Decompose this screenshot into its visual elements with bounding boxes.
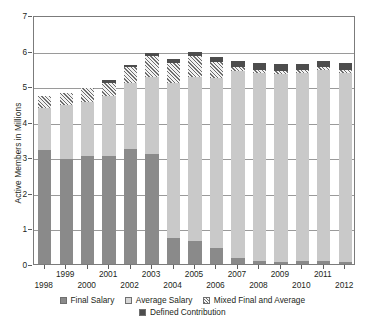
bar-column-1999[interactable] [60,93,73,264]
legend-row-secondary: Defined Contribution [139,307,225,317]
chart-legend: Final SalaryAverage SalaryMixed Final an… [0,295,365,317]
bar-series-group [34,17,354,264]
bar-column-2012[interactable] [339,63,352,264]
bar-column-2000[interactable] [81,88,94,264]
bar-column-2005[interactable] [188,52,201,264]
y-tick-label-3: 3 [13,153,27,163]
x-tick-2002 [130,265,131,269]
bar-segment [145,154,158,264]
x-tick-label-2002: 2002 [113,280,147,290]
x-tick-2004 [173,265,174,269]
bar-segment [38,96,51,108]
bar-segment [210,62,223,78]
bar-column-2003[interactable] [145,53,158,264]
bar-segment [167,63,180,83]
legend-label: Defined Contribution [150,307,226,317]
bar-segment [102,83,115,96]
bar-segment [167,238,180,264]
bar-segment [188,56,201,77]
bar-segment [124,83,137,150]
bar-segment [210,78,223,248]
legend-label: Mixed Final and Average [214,295,305,305]
x-tick-label-2006: 2006 [198,280,232,290]
bar-segment [296,261,309,264]
final-salary-swatch [60,297,67,304]
bar-column-2009[interactable] [274,64,287,264]
y-tick-label-2: 2 [13,189,27,199]
bar-segment [188,241,201,264]
bar-segment [102,156,115,264]
y-tick-label-5: 5 [13,82,27,92]
bar-segment [253,63,266,70]
bar-segment [253,261,266,264]
bar-segment [339,63,352,70]
y-tick-label-7: 7 [13,11,27,21]
x-tick-label-2001: 2001 [91,269,125,279]
bar-segment [124,149,137,264]
y-tick-5 [28,87,32,88]
bar-segment [339,73,352,262]
bar-segment [210,248,223,264]
bar-segment [81,102,94,155]
bar-segment [274,74,287,262]
x-tick-label-2012: 2012 [327,280,361,290]
x-tick-2008 [258,265,259,269]
bar-segment [317,261,330,264]
bar-segment [317,70,330,261]
x-tick-label-2004: 2004 [156,280,190,290]
bar-column-2002[interactable] [124,65,137,264]
x-tick-label-2009: 2009 [263,269,297,279]
x-tick-2000 [87,265,88,269]
x-tick-2006 [215,265,216,269]
bar-segment [188,77,201,241]
y-tick-0 [28,265,32,266]
plot-area [33,16,355,265]
bar-column-1998[interactable] [38,96,51,264]
bar-segment [38,108,51,150]
bar-segment [124,67,137,83]
y-tick-1 [28,229,32,230]
mixed-final-average-swatch [203,297,210,304]
y-tick-label-0: 0 [13,260,27,270]
legend-item-average-salary[interactable]: Average Salary [125,295,192,305]
bar-segment [60,105,73,159]
y-tick-2 [28,194,32,195]
x-tick-label-2003: 2003 [134,269,168,279]
x-tick-1998 [44,265,45,269]
stacked-bar-chart: Active Members in Millions 01234567 1998… [0,0,365,328]
bar-segment [274,64,287,71]
x-tick-label-2007: 2007 [220,269,254,279]
x-tick-label-2010: 2010 [284,280,318,290]
legend-label: Average Salary [136,295,193,305]
bar-segment [81,88,94,102]
bar-column-2006[interactable] [210,57,223,264]
bar-segment [167,83,180,239]
legend-item-mixed-final-average[interactable]: Mixed Final and Average [203,295,305,305]
x-tick-label-2008: 2008 [241,280,275,290]
bar-column-2007[interactable] [231,61,244,264]
bar-segment [60,93,73,104]
bar-segment [60,159,73,264]
bar-segment [231,258,244,264]
bar-column-2004[interactable] [167,59,180,264]
y-tick-label-4: 4 [13,118,27,128]
x-tick-2010 [301,265,302,269]
x-tick-label-1999: 1999 [48,269,82,279]
bar-column-2001[interactable] [102,80,115,264]
x-tick-label-2011: 2011 [306,269,340,279]
legend-row-primary: Final SalaryAverage SalaryMixed Final an… [60,295,305,305]
y-tick-7 [28,16,32,17]
legend-item-defined-contribution[interactable]: Defined Contribution [139,307,225,317]
legend-label: Final Salary [70,295,114,305]
y-tick-6 [28,52,32,53]
bar-segment [339,262,352,264]
bar-segment [38,150,51,264]
bar-column-2010[interactable] [296,64,309,264]
defined-contribution-swatch [139,309,146,316]
average-salary-swatch [125,297,132,304]
y-tick-3 [28,158,32,159]
bar-column-2011[interactable] [317,61,330,264]
legend-item-final-salary[interactable]: Final Salary [60,295,114,305]
bar-column-2008[interactable] [253,63,266,264]
x-tick-label-1998: 1998 [27,280,61,290]
